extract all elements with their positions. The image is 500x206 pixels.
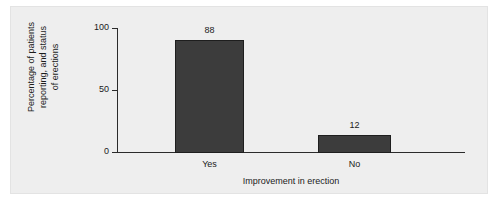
y-tick-label-50: 50 [83,85,109,94]
x-axis-title: Improvement in erection [117,176,465,186]
x-category-label-yes: Yes [175,159,244,169]
y-axis-line [117,28,118,153]
y-tick-label-100: 100 [83,23,109,32]
plot-area: 100 50 0 Percentage of patients reportin… [0,0,500,206]
y-tick-50 [112,90,117,91]
bar-no [318,135,391,153]
x-axis-line [117,152,465,153]
figure: 100 50 0 Percentage of patients reportin… [0,0,500,206]
y-tick-label-0: 0 [83,147,109,156]
bar-value-yes: 88 [175,26,244,35]
x-category-label-no: No [318,159,391,169]
bar-yes [175,40,244,153]
y-axis-title-line-1: Percentage of patients [25,0,37,142]
bar-value-no: 12 [318,121,391,130]
y-axis-title-line-2: reporting, and status [37,0,49,142]
y-axis-title: Percentage of patients reporting, and st… [25,0,69,142]
y-axis-title-line-3: of erections [49,0,61,142]
y-tick-100 [112,28,117,29]
y-tick-0 [112,152,117,153]
